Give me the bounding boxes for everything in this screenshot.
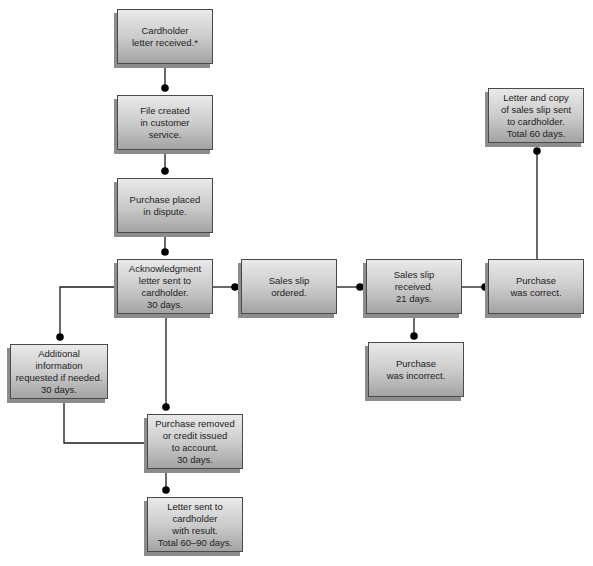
node-label: Letter and copy of sales slip sent to ca…	[501, 92, 571, 140]
node-label: Purchase was incorrect.	[387, 358, 446, 382]
connector-dot-icon	[162, 403, 170, 411]
connector-line	[64, 399, 147, 443]
node-label: Sales slip ordered.	[269, 275, 310, 299]
node-letter-and-copy-sent: Letter and copy of sales slip sent to ca…	[488, 88, 584, 143]
connector-dot-icon	[162, 486, 170, 494]
node-label: Additional information requested if need…	[16, 348, 103, 396]
connector-dot-icon	[161, 248, 169, 256]
connector-dot-icon	[161, 167, 169, 175]
node-label: Purchase removed or credit issued to acc…	[155, 418, 235, 466]
connector-dot-icon	[356, 283, 364, 291]
flowchart-canvas: Cardholder letter received.* File create…	[0, 0, 593, 566]
connector-dot-icon	[231, 283, 239, 291]
node-cardholder-letter-received: Cardholder letter received.*	[117, 9, 213, 64]
node-additional-information: Additional information requested if need…	[10, 344, 108, 399]
connector-dot-icon	[533, 147, 541, 155]
node-sales-slip-ordered: Sales slip ordered.	[241, 259, 337, 314]
node-file-created: File created in customer service.	[117, 95, 213, 150]
node-label: Acknowledgment letter sent to cardholder…	[129, 263, 201, 311]
node-purchase-incorrect: Purchase was incorrect.	[368, 342, 464, 397]
node-label: Purchase placed in dispute.	[130, 194, 201, 218]
node-letter-sent-result: Letter sent to cardholder with result. T…	[147, 497, 243, 552]
node-label: Cardholder letter received.*	[132, 25, 198, 49]
node-label: Sales slip received. 21 days.	[394, 269, 435, 305]
node-purchase-removed: Purchase removed or credit issued to acc…	[147, 414, 243, 469]
node-sales-slip-received: Sales slip received. 21 days.	[366, 259, 462, 314]
connector-dot-icon	[161, 84, 169, 92]
node-label: Purchase was correct.	[510, 275, 561, 299]
node-purchase-correct: Purchase was correct.	[488, 259, 584, 314]
connector-dot-icon	[410, 332, 418, 340]
node-purchase-in-dispute: Purchase placed in dispute.	[117, 178, 213, 233]
node-acknowledgment-letter: Acknowledgment letter sent to cardholder…	[117, 259, 213, 314]
node-label: File created in customer service.	[140, 105, 190, 141]
connector-dot-icon	[56, 333, 64, 341]
connector-line	[60, 287, 117, 337]
node-label: Letter sent to cardholder with result. T…	[158, 501, 232, 549]
